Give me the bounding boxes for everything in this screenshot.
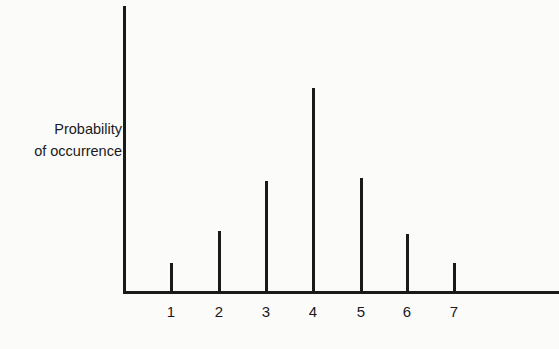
bar-2 (218, 231, 221, 292)
y-axis (123, 6, 126, 293)
bar-3 (265, 181, 268, 292)
x-tick-label-3: 3 (256, 303, 276, 320)
x-tick-label-1: 1 (161, 303, 181, 320)
bar-4 (312, 88, 315, 292)
y-axis-label-line2: of occurrence (0, 140, 122, 162)
bar-7 (453, 263, 456, 292)
x-axis (123, 291, 559, 294)
x-tick-label-6: 6 (397, 303, 417, 320)
y-axis-label-line1: Probability (0, 118, 122, 140)
bar-1 (170, 263, 173, 292)
x-tick-label-4: 4 (303, 303, 323, 320)
y-axis-label: Probability of occurrence (0, 118, 122, 162)
bar-5 (360, 178, 363, 292)
x-tick-label-2: 2 (209, 303, 229, 320)
bar-6 (406, 234, 409, 292)
x-tick-label-5: 5 (351, 303, 371, 320)
x-tick-label-7: 7 (444, 303, 464, 320)
